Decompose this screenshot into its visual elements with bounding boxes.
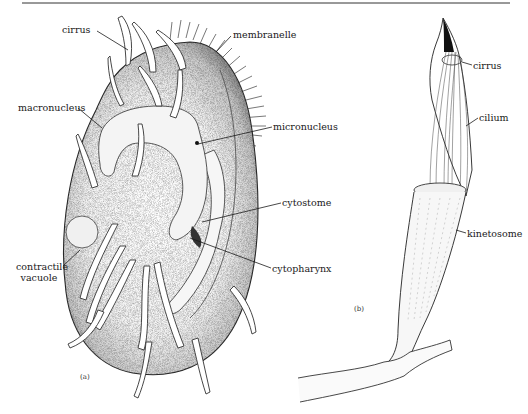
label-membranelle: membranelle xyxy=(233,30,296,40)
contractile-vacuole-shape xyxy=(66,216,98,248)
label-cilium: cilium xyxy=(479,113,509,123)
label-kinetosome: kinetosome xyxy=(467,229,522,239)
label-contractile: contractile xyxy=(16,262,62,272)
illustration xyxy=(0,0,528,414)
label-cytostome: cytostome xyxy=(282,198,331,208)
label-cytopharynx: cytopharynx xyxy=(272,264,331,274)
panel-label-a: (a) xyxy=(80,373,90,381)
figure: cirrus membranelle macronucleus micronuc… xyxy=(0,0,528,414)
micronucleus-dot xyxy=(195,141,199,145)
label-cirrus-a: cirrus xyxy=(62,25,90,35)
label-vacuole: vacuole xyxy=(16,273,62,283)
panel-b-drawing xyxy=(298,18,472,402)
panel-a-drawing xyxy=(64,16,266,398)
label-micronucleus: micronucleus xyxy=(273,122,338,132)
panel-label-b: (b) xyxy=(354,305,364,313)
label-macronucleus: macronucleus xyxy=(18,103,85,113)
label-cirrus-b: cirrus xyxy=(473,61,501,71)
